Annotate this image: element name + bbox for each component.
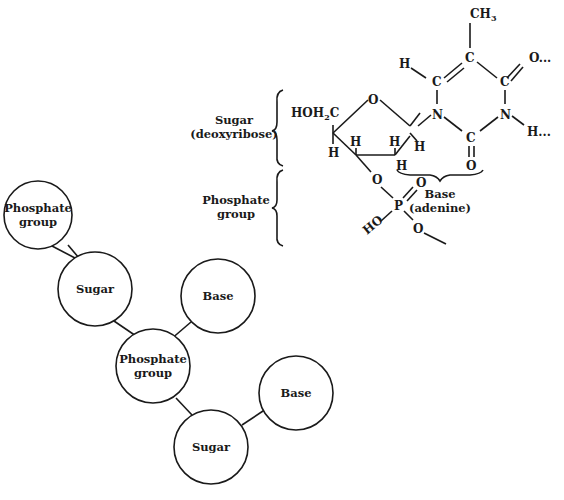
sugar-node: Sugar	[58, 252, 132, 326]
svg-text:Sugar: Sugar	[192, 440, 231, 454]
svg-text:Base: Base	[203, 289, 234, 303]
oxygen-hbond: O...	[529, 51, 551, 65]
oxygen-atom: O	[372, 173, 382, 187]
block-diagram: Phosphate group Sugar Base Phosphate gro…	[4, 181, 333, 484]
phosphate-brace	[272, 170, 283, 246]
phosphate-group-label: Phosphate	[202, 193, 270, 207]
phosphorus-atom: P	[394, 199, 403, 213]
svg-text:group: group	[134, 366, 172, 380]
oxygen-atom: O	[466, 159, 476, 173]
base-node: Base	[259, 356, 333, 430]
hydroxyl-group: HO	[360, 213, 386, 238]
hydrogen-hbond: H...	[527, 125, 551, 139]
carbon-atom: C	[466, 131, 476, 145]
h-atom: H	[414, 140, 425, 154]
svg-text:Base: Base	[281, 386, 312, 400]
base-label: Base	[425, 187, 456, 201]
base-node: Base	[181, 259, 255, 333]
structural-formula: Sugar (deoxyribose) Phosphate group Base…	[190, 7, 551, 246]
oxygen-atom: O	[413, 222, 423, 236]
nucleotide-diagram: Sugar (deoxyribose) Phosphate group Base…	[0, 0, 564, 500]
h-atom: H	[389, 135, 400, 149]
nitrogen-atom: N	[500, 108, 511, 122]
sugar-node: Sugar	[174, 410, 248, 484]
carbon-atom: C	[432, 75, 442, 89]
oxygen-atom: O	[416, 176, 426, 190]
hoh2c-atom: HOH2C	[291, 106, 339, 122]
phosphate-node: Phosphate group	[116, 329, 190, 403]
svg-text:Phosphate: Phosphate	[4, 201, 72, 215]
h-atom: H	[350, 135, 361, 149]
phosphate-node: Phosphate group	[4, 181, 72, 249]
svg-text:Phosphate: Phosphate	[119, 352, 187, 366]
sugar-label: Sugar	[215, 113, 254, 127]
phosphate-group-label-line2: group	[217, 207, 255, 221]
ring-oxygen-atom: O	[368, 93, 378, 107]
carbon-atom: C	[465, 51, 475, 65]
nitrogen-atom: N	[432, 108, 443, 122]
h-atom: H	[328, 146, 339, 160]
svg-text:Sugar: Sugar	[76, 282, 115, 296]
adenine-label: (adenine)	[409, 201, 471, 215]
deoxyribose-label: (deoxyribose)	[190, 127, 277, 141]
h-atom: H	[396, 159, 407, 173]
methyl-group: CH3	[470, 7, 497, 23]
h-atom: H	[399, 57, 410, 71]
svg-text:group: group	[19, 215, 57, 229]
